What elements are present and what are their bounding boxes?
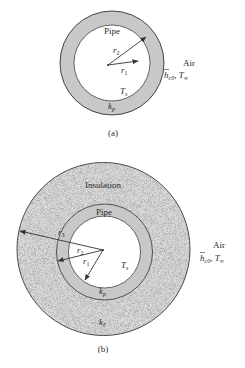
pipe-label-a: Pipe	[104, 26, 120, 36]
insulation-label-b: Insulation	[85, 180, 121, 190]
convection-label-b: hc0, T∞	[200, 253, 224, 264]
air-label-a: Air	[183, 58, 195, 68]
figure-b: Insulation Pipe r3 r2 r1 Ts kp kI Air hc…	[17, 163, 225, 355]
pipe-bore-a	[74, 25, 150, 101]
caption-a: (a)	[108, 128, 118, 138]
pipe-insulation-diagram: Pipe r2 r1 Ts kp Air hc0, T∞ (a) Insulat…	[0, 0, 245, 368]
convection-label-a: hc0, T∞	[164, 70, 188, 81]
center-point-a	[107, 64, 109, 66]
center-point-b	[102, 249, 104, 251]
air-label-b: Air	[213, 240, 225, 250]
figure-a: Pipe r2 r1 Ts kp Air hc0, T∞ (a)	[60, 11, 195, 138]
pipe-label-b: Pipe	[96, 207, 112, 217]
caption-b: (b)	[98, 344, 109, 354]
